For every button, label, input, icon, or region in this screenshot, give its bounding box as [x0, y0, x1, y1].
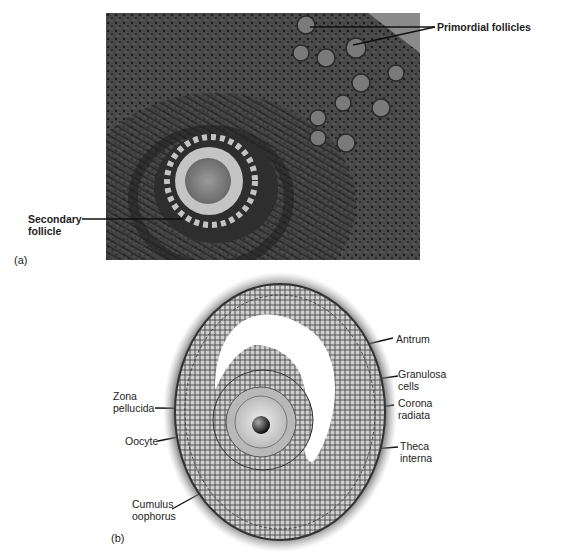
label-corona-line2: radiata [398, 409, 430, 421]
label-granulosa-line1: Granulosa [398, 368, 446, 380]
label-oocyte: Oocyte [125, 435, 158, 447]
label-theca-line1: Theca [400, 440, 429, 452]
panel-tag-b: (b) [111, 532, 124, 544]
label-zona-line2: pellucida [113, 402, 154, 414]
label-theca-line2: interna [400, 452, 432, 464]
label-cumulus-line2: oophorus [132, 510, 176, 522]
label-cumulus-line1: Cumulus [132, 498, 173, 510]
secondary-follicle-illustration [0, 0, 562, 555]
label-secondary-follicle-line2: follicle [28, 225, 61, 237]
label-zona-line1: Zona [113, 390, 137, 402]
label-antrum: Antrum [396, 333, 430, 345]
label-primordial-follicles: Primordial follicles [437, 21, 531, 33]
panel-tag-a: (a) [14, 254, 27, 266]
label-secondary-follicle-line1: Secondary [28, 213, 82, 225]
label-corona-line1: Corona [398, 397, 432, 409]
label-granulosa-line2: cells [398, 380, 419, 392]
